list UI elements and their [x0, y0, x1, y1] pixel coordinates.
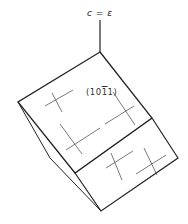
- top-face-hatching: [45, 90, 135, 154]
- front-face-hatching: [106, 148, 166, 180]
- face-miller-index-label: (1011): [86, 87, 117, 97]
- top-face-outline: [18, 52, 152, 173]
- front-face-outline: [75, 118, 178, 211]
- c-axis-label: c = ε: [87, 8, 113, 18]
- crystal-diagram: c = ε (1011): [0, 0, 188, 224]
